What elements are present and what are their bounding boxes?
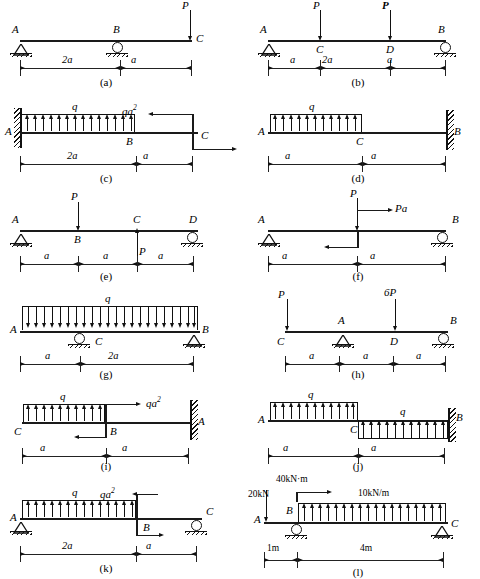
support-pin-A bbox=[335, 333, 357, 351]
dimension-label-a2: a bbox=[122, 442, 127, 453]
figure-sheet: A B C P 2a a (a) A C D B P P bbox=[0, 0, 480, 579]
panel-h: C A D B P 6P a a a (h) bbox=[240, 284, 480, 378]
dimension-label-a: a bbox=[143, 150, 148, 161]
load-label-P: P bbox=[182, 0, 189, 11]
moment-couple-top-arrowhead bbox=[132, 492, 137, 496]
dimension-label-a3: a bbox=[158, 250, 163, 261]
node-label-A: A bbox=[258, 414, 265, 425]
load-label-10kNm: 10kN/m bbox=[358, 489, 389, 499]
load-arrowhead-20kN bbox=[264, 517, 268, 522]
node-label-C: C bbox=[356, 136, 363, 147]
node-label-D: D bbox=[390, 336, 398, 347]
panel-g: A C B q bbox=[0, 284, 240, 378]
panel-caption-l: (l) bbox=[328, 566, 388, 578]
moment-couple-top-arm bbox=[136, 494, 158, 495]
distributed-load-q-right bbox=[358, 420, 448, 438]
support-roller-B bbox=[112, 42, 123, 53]
support-roller-C bbox=[191, 520, 202, 531]
load-arrow-P-C bbox=[287, 299, 288, 329]
moment-couple-top-arrowhead bbox=[388, 208, 393, 212]
panel-caption-k: (k) bbox=[76, 562, 136, 574]
node-label-B: B bbox=[126, 136, 133, 147]
node-label-A: A bbox=[198, 416, 205, 427]
support-roller-C bbox=[74, 333, 85, 344]
moment-couple-stem bbox=[296, 492, 298, 502]
node-label-A: A bbox=[12, 214, 19, 225]
ground-hatch-A bbox=[10, 531, 32, 535]
ground-hatch-A bbox=[332, 344, 354, 348]
load-arrowhead-6P-D bbox=[393, 326, 397, 331]
panel-caption-i: (i) bbox=[76, 460, 136, 472]
panel-caption-a: (a) bbox=[76, 76, 136, 88]
node-label-B: B bbox=[74, 234, 81, 245]
moment-couple-bottom-arm bbox=[328, 247, 358, 248]
moment-couple-stem bbox=[192, 114, 194, 134]
support-pin-C bbox=[434, 524, 456, 542]
beam-line bbox=[285, 331, 448, 333]
dimension-label-a: a bbox=[131, 54, 136, 65]
load-label-q: q bbox=[309, 101, 315, 112]
ground-hatch-B bbox=[431, 243, 453, 247]
distributed-load-q bbox=[270, 114, 362, 132]
support-roller-B bbox=[440, 42, 451, 53]
node-label-A: A bbox=[12, 24, 19, 35]
support-pin-A bbox=[13, 42, 35, 60]
beam-line bbox=[264, 522, 448, 524]
support-fixed-wall-B bbox=[448, 408, 456, 442]
panel-i: C B A q qa2 a a (i) bbox=[0, 378, 240, 472]
load-label-qa2: qa2 bbox=[100, 487, 115, 500]
panel-k: A B C q qa2 bbox=[0, 472, 240, 579]
panel-c: A B C q qa2 2a a (c) bbox=[0, 92, 240, 188]
dimension-label-a3: a bbox=[416, 350, 421, 361]
moment-couple-top-arm bbox=[357, 210, 389, 211]
panel-b: A C D B P P a 2a a (b) bbox=[240, 0, 480, 92]
ground-hatch-D bbox=[181, 243, 203, 247]
dimension-label-a1: a bbox=[40, 442, 45, 453]
distributed-load-q bbox=[23, 404, 105, 422]
support-pin-A bbox=[13, 232, 35, 250]
moment-couple-arm bbox=[296, 492, 328, 493]
ground-hatch-A bbox=[10, 53, 32, 57]
node-label-B: B bbox=[452, 214, 459, 225]
dimension-label-a2: a bbox=[370, 250, 375, 261]
load-arrowhead-P-C bbox=[318, 36, 322, 41]
load-label-40kNm: 40kN·m bbox=[276, 475, 308, 485]
beam-line bbox=[20, 518, 202, 520]
load-arrow-P bbox=[190, 10, 191, 38]
ground-hatch-A bbox=[10, 243, 32, 247]
node-label-C: C bbox=[196, 33, 203, 44]
dimension-label-a: a bbox=[45, 350, 50, 361]
dimension-label-a1: a bbox=[282, 250, 287, 261]
moment-couple-top-arm bbox=[152, 114, 193, 115]
beam-line bbox=[268, 40, 446, 42]
node-label-B: B bbox=[450, 315, 457, 326]
ground-hatch-C bbox=[431, 535, 453, 539]
load-arrowhead-P-C bbox=[135, 228, 139, 233]
dimension-label-a2: a bbox=[387, 54, 392, 65]
distributed-load-10kNm bbox=[298, 503, 446, 522]
support-roller-B bbox=[438, 333, 449, 344]
support-pin-A bbox=[261, 232, 283, 250]
moment-couple-arrowhead bbox=[327, 490, 332, 494]
panel-f: A B P Pa a a (f) bbox=[240, 188, 480, 284]
support-pin-B bbox=[186, 333, 208, 351]
panel-l: A B C 20kN 40kN·m 10kN/m bbox=[240, 472, 480, 579]
load-label-q-left: q bbox=[308, 389, 314, 400]
ground-hatch-B bbox=[106, 53, 128, 57]
load-label-q: q bbox=[105, 293, 111, 304]
node-label-A: A bbox=[338, 315, 345, 326]
moment-couple-top-arm bbox=[105, 404, 137, 405]
dimension-label-a2: a bbox=[371, 150, 376, 161]
ground-hatch-B bbox=[434, 53, 456, 57]
support-fixed-wall-A bbox=[190, 400, 198, 440]
node-label-C: C bbox=[206, 506, 213, 517]
panel-j: A C B q q bbox=[240, 378, 480, 472]
support-roller-D bbox=[187, 232, 198, 243]
node-label-B: B bbox=[286, 505, 293, 516]
support-pin-A bbox=[13, 520, 35, 538]
node-label-B: B bbox=[110, 426, 117, 437]
node-label-B: B bbox=[438, 24, 445, 35]
load-label-P-B: P bbox=[71, 191, 78, 202]
dimension-label-2a: 2a bbox=[62, 540, 73, 551]
node-label-C: C bbox=[133, 214, 140, 225]
